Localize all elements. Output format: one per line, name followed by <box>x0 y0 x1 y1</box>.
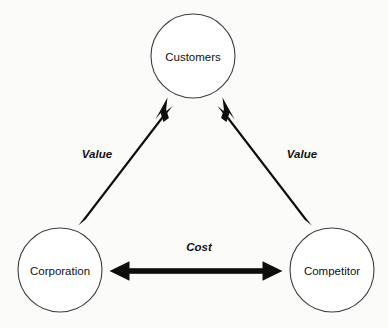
edge-competitor-to-customers <box>217 98 311 226</box>
node-corporation[interactable]: Corporation <box>18 228 102 312</box>
edge-corporation-competitor-cost <box>110 261 283 281</box>
strategic-triangle-diagram: Customers Corporation Competitor Value V… <box>0 0 388 328</box>
node-customers[interactable]: Customers <box>151 14 235 98</box>
edge-label-value-right: Value <box>287 148 318 160</box>
arrow-shaft-corporation-customers <box>78 106 172 226</box>
edge-label-cost: Cost <box>186 241 213 253</box>
node-corporation-label: Corporation <box>30 265 90 277</box>
arrow-shaft-competitor-customers <box>217 106 311 226</box>
arrowhead-right-cost <box>263 261 283 281</box>
node-customers-label: Customers <box>165 51 221 63</box>
diagram-canvas: Customers Corporation Competitor Value V… <box>0 0 388 328</box>
node-competitor[interactable]: Competitor <box>290 228 374 312</box>
node-competitor-label: Competitor <box>304 265 360 277</box>
edge-label-value-left: Value <box>82 148 113 160</box>
edge-corporation-to-customers <box>78 98 172 226</box>
arrowhead-left-cost <box>110 261 130 281</box>
arrow-shaft-cost <box>126 268 266 274</box>
